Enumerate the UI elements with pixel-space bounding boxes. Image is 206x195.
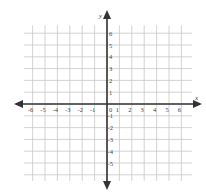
tick-labels: -6-5-4-3-2-10123456123456-1-2-3-4-5	[28, 30, 182, 167]
x-tick-label: -3	[65, 106, 70, 113]
coordinate-plane: x y -6-5-4-3-2-10123456123456-1-2-3-4-5	[0, 0, 206, 195]
y-tick-label: -4	[108, 148, 114, 155]
x-tick-label: -6	[28, 106, 34, 113]
y-axis-label: y	[98, 12, 103, 20]
x-tick-label: -2	[77, 106, 82, 113]
x-tick-label: 1	[116, 106, 119, 113]
x-axis-label: x	[194, 94, 199, 102]
x-tick-label: -1	[90, 106, 95, 113]
x-axis-left-arrow-icon	[14, 100, 23, 108]
x-tick-label: -5	[40, 106, 45, 113]
grid-lines	[24, 25, 192, 180]
y-tick-label: 5	[109, 42, 112, 49]
x-tick-label: 3	[141, 106, 144, 113]
y-tick-label: -1	[108, 112, 113, 119]
x-tick-label: 2	[128, 106, 131, 113]
y-tick-label: -3	[108, 136, 113, 143]
y-axis-up-arrow-icon	[103, 10, 111, 19]
y-tick-label: -5	[108, 160, 113, 167]
y-tick-label: 1	[109, 89, 112, 96]
y-tick-label: 3	[109, 65, 112, 72]
x-tick-label: -4	[53, 106, 59, 113]
y-tick-label: -2	[108, 124, 113, 131]
y-axis-down-arrow-icon	[103, 181, 111, 190]
x-tick-label: 5	[165, 106, 168, 113]
y-tick-label: 2	[109, 77, 112, 84]
